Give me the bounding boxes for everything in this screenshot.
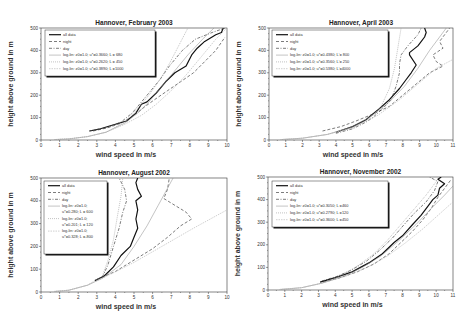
legend-entry-label: all data (290, 183, 303, 188)
x-tick-label: 0 (40, 295, 43, 300)
x-tick-label: 7 (170, 295, 173, 300)
x-tick-label: 4 (114, 143, 117, 148)
chart-panel-3: Hannover, August 20020123456789100100200… (7, 169, 230, 311)
legend-entry-label: day (62, 197, 68, 202)
x-tick-label: 3 (317, 293, 320, 298)
y-axis-label: height above ground in m (234, 191, 242, 277)
y-tick-label: 0 (35, 290, 38, 295)
x-tick-label: 1 (58, 143, 61, 148)
legend-entry-label: night (62, 190, 71, 195)
y-tick-label: 0 (35, 138, 38, 143)
legend-entry-label: log-lin: z0=1.0; u*=0.2790; L =120 (290, 210, 349, 215)
y-tick-label: 500 (30, 26, 38, 31)
legend-entry-label: day (290, 46, 296, 51)
chart-panel-4: Hannover, November 200201234567891011010… (234, 168, 456, 309)
legend: all datanightdaylog-lin: z0=1.0; u*=0.43… (272, 30, 390, 78)
x-axis-label: wind speed in m/s (95, 303, 156, 311)
y-tick-label: 300 (30, 221, 38, 226)
x-tick-label: 10 (434, 293, 440, 298)
legend-entry-label-cont: u*=0.201; L = 120 (62, 222, 94, 227)
x-tick-label: 0 (40, 143, 43, 148)
y-tick-label: 400 (257, 197, 265, 202)
x-tick-label: 6 (368, 143, 371, 148)
legend-entry-label: night (63, 39, 72, 44)
y-axis-label: height above ground in m (7, 41, 15, 127)
x-tick-label: 4 (334, 293, 337, 298)
x-tick-label: 1 (284, 293, 287, 298)
y-tick-label: 200 (30, 93, 38, 98)
y-tick-label: 0 (262, 288, 265, 293)
y-tick-label: 500 (258, 26, 266, 31)
legend-entry-label: log-lin: z0=1.0; u*=0.3600; L =450 (290, 217, 349, 222)
y-tick-label: 200 (258, 93, 266, 98)
x-tick-label: 3 (96, 295, 99, 300)
x-tick-label: 6 (151, 295, 154, 300)
legend-entry-label: log-lin: z0=1.0; (62, 228, 87, 233)
y-tick-label: 400 (258, 48, 266, 53)
chart-title: Hannover, February 2003 (95, 19, 173, 27)
x-tick-label: 6 (151, 143, 154, 148)
legend: all datanightdaylog-lin: z0=1.0;u*=0.280… (44, 181, 109, 256)
x-tick-label: 8 (402, 143, 405, 148)
x-tick-label: 9 (207, 143, 210, 148)
x-tick-label: 7 (384, 293, 387, 298)
x-tick-label: 8 (189, 295, 192, 300)
legend-entry-label: all data (62, 183, 75, 188)
x-tick-label: 8 (189, 143, 192, 148)
legend: all datanightdaylog-lin: z0=1.0; u*=0.30… (272, 181, 390, 229)
legend-entry-label: all data (63, 32, 76, 37)
legend-entry-label: log-lin: z0=1.0; u*=0.3560; L'= 250 (290, 59, 350, 64)
x-tick-label: 5 (133, 295, 136, 300)
x-tick-label: 5 (133, 143, 136, 148)
x-tick-label: 9 (418, 143, 421, 148)
y-tick-label: 200 (30, 244, 38, 249)
x-tick-label: 3 (318, 143, 321, 148)
legend-entry-label: log-lin: z0=1.0; u*=0.4380; L'= 800 (290, 52, 350, 57)
x-tick-label: 2 (77, 143, 80, 148)
y-tick-label: 0 (263, 138, 266, 143)
figure: Hannover, February 200301234567891001002… (0, 0, 471, 323)
x-tick-label: 3 (96, 143, 99, 148)
legend-entry-label: day (290, 197, 296, 202)
legend-entry-label: log-lin: z0=1.0; u*=0.5380; L'=4000 (290, 66, 351, 71)
x-tick-label: 1 (58, 295, 61, 300)
x-tick-label: 1 (284, 143, 287, 148)
x-axis-label: wind speed in m/s (95, 151, 156, 159)
legend-entry-label-cont: u*=0.328; L =-800 (62, 234, 94, 239)
y-tick-label: 100 (257, 265, 265, 270)
y-tick-label: 500 (257, 175, 265, 180)
chart-title: Hannover, April 2003 (329, 19, 393, 27)
x-tick-label: 9 (207, 295, 210, 300)
x-tick-label: 11 (451, 293, 456, 298)
chart-title: Hannover, November 2002 (320, 168, 402, 176)
y-tick-label: 100 (30, 115, 38, 120)
y-tick-label: 500 (30, 176, 38, 181)
x-tick-label: 0 (268, 143, 271, 148)
legend-entry-label: log-lin: z0=1.0; u*=0.3890; L =1000 (63, 66, 124, 71)
x-tick-label: 9 (418, 293, 421, 298)
y-tick-label: 300 (258, 70, 266, 75)
y-axis-label: height above ground in m (7, 192, 15, 278)
legend-entry-label-cont: u*=0.280; L = 600 (62, 209, 94, 214)
x-tick-label: 8 (401, 293, 404, 298)
legend-entry-label: day (63, 46, 69, 51)
x-axis-label: wind speed in m/s (322, 151, 383, 159)
legend-entry-label: log-lin: z0=1.0; u*=0.3050; L =460 (290, 203, 349, 208)
legend-entry-label: log-lin: z0=1.0; (62, 216, 87, 221)
x-tick-label: 10 (434, 143, 440, 148)
y-tick-label: 300 (257, 220, 265, 225)
y-tick-label: 400 (30, 48, 38, 53)
x-tick-label: 5 (351, 293, 354, 298)
x-tick-label: 4 (335, 143, 338, 148)
x-tick-label: 5 (351, 143, 354, 148)
series-line-night-1 (97, 178, 192, 280)
x-tick-label: 11 (451, 143, 456, 148)
legend-entry-label: all data (290, 32, 303, 37)
y-axis-label: height above ground in m (235, 41, 243, 127)
y-tick-label: 100 (258, 115, 266, 120)
x-tick-label: 4 (114, 295, 117, 300)
y-tick-label: 400 (30, 198, 38, 203)
x-tick-label: 7 (385, 143, 388, 148)
chart-panel-2: Hannover, April 200301234567891011010020… (235, 19, 456, 159)
legend-entry-label: log-lin: z0=1.0; u*=0.2620; L = 450 (63, 59, 123, 64)
